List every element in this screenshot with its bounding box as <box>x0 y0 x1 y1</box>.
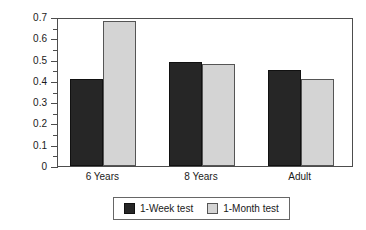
legend-entry: 1-Month test <box>207 203 279 214</box>
y-axis-tick-label: 0.1 <box>5 141 47 151</box>
legend-label: 1-Week test <box>140 203 193 214</box>
bar-6-years-1-month-test <box>103 21 136 166</box>
x-axis-tick-label: 6 Years <box>54 171 150 183</box>
chart-legend: 1-Week test1-Month test <box>113 197 290 220</box>
legend-entry: 1-Week test <box>124 203 193 214</box>
y-axis-tick-label: 0 <box>5 162 47 172</box>
y-axis-tick-label: 0.6 <box>5 34 47 44</box>
y-axis-tick-label: 0.5 <box>5 56 47 66</box>
light-swatch-icon <box>207 203 218 214</box>
bar-adult-1-week-test <box>268 70 301 166</box>
bar-8-years-1-month-test <box>202 64 235 166</box>
x-axis-tick-label: 8 Years <box>153 171 249 183</box>
legend-label: 1-Month test <box>223 203 279 214</box>
y-axis-tick-label: 0.4 <box>5 77 47 87</box>
bar-chart-figure: False-Recall Probability 00.10.20.30.40.… <box>0 0 366 230</box>
y-axis-major-tick <box>51 167 58 168</box>
dark-swatch-icon <box>124 203 135 214</box>
y-axis-tick-label: 0.3 <box>5 98 47 108</box>
bar-6-years-1-week-test <box>70 79 103 166</box>
bar-8-years-1-week-test <box>169 62 202 166</box>
bar-adult-1-month-test <box>301 79 334 166</box>
y-axis-tick-label: 0.2 <box>5 119 47 129</box>
plot-area <box>57 18 353 167</box>
x-axis-tick-label: Adult <box>252 171 348 183</box>
y-axis-tick-label: 0.7 <box>5 13 47 23</box>
